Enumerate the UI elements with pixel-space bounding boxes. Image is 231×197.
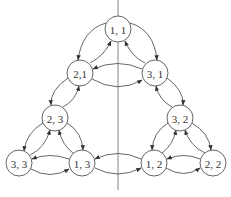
node-label: 1, 1 — [110, 24, 127, 36]
node-label: 2, 2 — [205, 158, 222, 170]
edge-n13-to-n23 — [59, 130, 73, 153]
state-node-n13: 1, 3 — [69, 150, 95, 176]
state-graph-diagram: 1, 12,13, 12, 33, 23, 31, 31, 22, 2 — [0, 0, 231, 197]
edge-n21-to-n23 — [51, 78, 68, 105]
edge-n31-to-n21 — [93, 64, 142, 70]
edge-n13-to-n33 — [32, 156, 69, 160]
state-node-n11: 1, 1 — [105, 16, 131, 42]
node-label: 1, 2 — [146, 158, 163, 170]
edge-n31-to-n32 — [167, 78, 183, 105]
node-label: 3, 3 — [11, 158, 28, 170]
edge-n23-to-n13 — [67, 123, 83, 150]
edge-n33-to-n23 — [30, 130, 50, 155]
edge-n33-to-n13 — [31, 169, 69, 175]
nodes-layer: 1, 12,13, 12, 33, 23, 31, 31, 22, 2 — [6, 16, 226, 176]
state-node-n23: 2, 3 — [42, 105, 68, 131]
edge-n31-to-n11 — [125, 41, 145, 63]
edge-n22-to-n12 — [167, 156, 200, 160]
node-label: 3, 2 — [172, 113, 189, 125]
edge-n32-to-n12 — [152, 123, 168, 150]
node-label: 2, 3 — [47, 113, 64, 125]
node-label: 1, 3 — [74, 158, 91, 170]
state-node-n31: 3, 1 — [142, 60, 168, 86]
state-node-n33: 3, 3 — [6, 150, 32, 176]
state-node-n22: 2, 2 — [200, 150, 226, 176]
edge-n12-to-n22 — [166, 168, 200, 174]
edge-n21-to-n31 — [92, 79, 142, 87]
edge-n32-to-n31 — [156, 86, 172, 107]
edge-n22-to-n32 — [185, 130, 205, 153]
edge-n11-to-n31 — [130, 23, 157, 60]
node-label: 2,1 — [73, 68, 87, 80]
state-node-n12: 1, 2 — [141, 150, 167, 176]
node-label: 3, 1 — [147, 68, 164, 80]
state-node-n21: 2,1 — [67, 60, 93, 86]
edge-n23-to-n33 — [24, 123, 43, 151]
edge-n12-to-n32 — [162, 130, 176, 153]
edges-layer — [24, 23, 211, 175]
edge-n21-to-n11 — [90, 41, 111, 63]
edge-n23-to-n21 — [63, 86, 79, 107]
state-node-n32: 3, 2 — [167, 105, 193, 131]
